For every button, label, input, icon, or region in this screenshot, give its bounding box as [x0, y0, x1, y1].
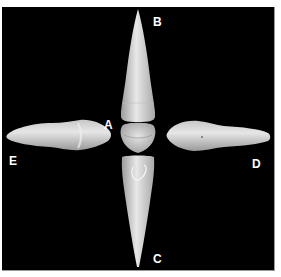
label-a: A [104, 119, 113, 131]
tooth-view-e [6, 120, 111, 150]
label-b: B [153, 16, 162, 28]
tooth-view-d [167, 121, 271, 151]
label-c: C [153, 253, 162, 265]
tooth-view-c [122, 156, 154, 268]
tooth-view-b [121, 9, 155, 122]
tooth-views-illustration [2, 7, 274, 270]
label-e: E [9, 155, 17, 167]
tooth-view-a [121, 123, 156, 153]
label-d: D [252, 158, 261, 170]
tooth-figure-panel: B A E D C [2, 7, 275, 271]
